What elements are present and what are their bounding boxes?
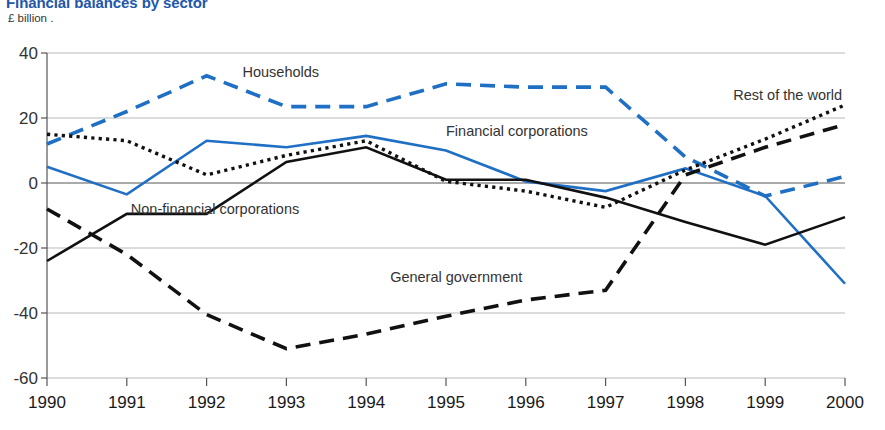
x-tick-label: 1997 xyxy=(587,393,625,412)
y-axis-ticks: 40200-20-40-60 xyxy=(13,44,47,388)
x-tick-label: 1992 xyxy=(188,393,226,412)
x-tick-label: 1999 xyxy=(746,393,784,412)
series-label-rest-of-the-world: Rest of the world xyxy=(733,87,842,103)
series-label-non-financial-corporations: Non-financial corporations xyxy=(131,201,299,217)
x-axis-ticks: 1990199119921993199419951996199719981999… xyxy=(28,378,864,412)
series-labels: HouseholdsFinancial corporationsNon-fina… xyxy=(131,64,842,285)
x-tick-label: 1996 xyxy=(507,393,545,412)
series-line-rest-of-the-world xyxy=(47,105,845,207)
financial-balances-chart: Financial balances by sector £ billion .… xyxy=(0,0,885,430)
y-tick-label: -60 xyxy=(13,369,38,388)
x-tick-label: 1994 xyxy=(347,393,385,412)
x-tick-label: 1991 xyxy=(108,393,146,412)
series-label-financial-corporations: Financial corporations xyxy=(446,123,588,139)
x-tick-label: 1993 xyxy=(267,393,305,412)
y-tick-label: 0 xyxy=(29,174,38,193)
series-label-households: Households xyxy=(243,64,320,80)
x-tick-label: 1998 xyxy=(666,393,704,412)
y-tick-label: 40 xyxy=(19,44,38,63)
y-tick-label: -20 xyxy=(13,239,38,258)
series-label-general-government: General government xyxy=(390,269,522,285)
x-tick-label: 1995 xyxy=(427,393,465,412)
series-line-general-government xyxy=(47,125,845,349)
y-tick-label: -40 xyxy=(13,304,38,323)
plot-area: 40200-20-40-60 1990199119921993199419951… xyxy=(0,0,885,430)
x-tick-label: 2000 xyxy=(826,393,864,412)
y-tick-label: 20 xyxy=(19,109,38,128)
x-tick-label: 1990 xyxy=(28,393,66,412)
